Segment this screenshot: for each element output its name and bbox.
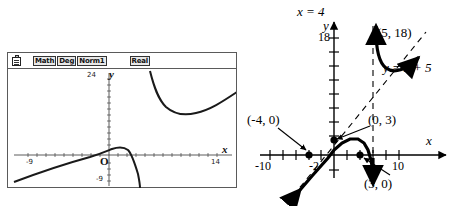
- rational-function-diagram: x = 4 y = x + 5 (5, 18) (-4, 0) (0, 3) (…: [240, 0, 459, 206]
- calculator-graph-svg: [8, 69, 236, 188]
- point-dot-left-root: [305, 151, 312, 158]
- calc-curve-left-branch: [14, 148, 140, 188]
- slant-asymptote-label: y = x + 5: [383, 60, 432, 76]
- calculator-status-bar: Math Deg Norm1 Real: [8, 53, 236, 69]
- calc-origin-label: O: [100, 155, 109, 167]
- graphing-calculator-screenshot: Math Deg Norm1 Real: [7, 52, 237, 188]
- leader-left-root: [278, 128, 306, 150]
- diagram-y-axis-name: y: [323, 18, 329, 34]
- point-label-y-intercept: (0, 3): [368, 112, 396, 128]
- leader-right-root: [364, 158, 390, 175]
- point-label-local-min: (5, 18): [377, 25, 412, 41]
- vertical-asymptote-label: x = 4: [297, 4, 325, 20]
- point-dot-right-root: [356, 151, 363, 158]
- clipboard-icon: [12, 55, 21, 66]
- x-tick-label-neg10: -10: [255, 159, 271, 174]
- calc-x-min-label: -9: [26, 158, 33, 166]
- calc-y-min-label: -9: [96, 175, 103, 183]
- point-label-left-root: (-4, 0): [247, 112, 280, 128]
- leader-y-intercept: [337, 126, 370, 139]
- calc-curve-right-branch: [150, 71, 236, 114]
- point-label-right-root: (3, 0): [364, 176, 392, 192]
- diagram-x-axis-name: x: [426, 133, 432, 149]
- calc-x-max-label: 14: [211, 158, 220, 166]
- x-tick-label-10: 10: [392, 159, 404, 174]
- status-chip-angle[interactable]: Deg: [57, 56, 76, 66]
- calculator-graph-screen[interactable]: 24 y -9 -9 14 x O: [8, 69, 236, 188]
- diagram-svg: [240, 0, 459, 206]
- status-chip-math[interactable]: Math: [33, 56, 56, 66]
- calc-y-axis-name: y: [109, 69, 114, 80]
- status-chip-number-mode[interactable]: Real: [130, 56, 150, 66]
- x-tick-label-neg2: -2: [309, 159, 319, 174]
- status-chip-display[interactable]: Norm1: [77, 56, 106, 66]
- calc-y-max-label: 24: [87, 71, 96, 79]
- point-dot-y-intercept: [330, 136, 337, 143]
- calc-x-axis-name: x: [222, 143, 228, 155]
